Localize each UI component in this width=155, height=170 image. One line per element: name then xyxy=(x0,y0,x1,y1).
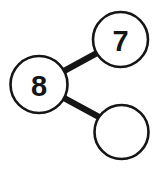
node-part-bottom[interactable] xyxy=(95,105,149,159)
number-bond-diagram: 8 7 xyxy=(0,0,155,170)
node-part-top[interactable]: 7 xyxy=(93,12,148,67)
node-whole[interactable]: 8 xyxy=(11,56,68,113)
edge-whole-to-part-bottom xyxy=(64,98,99,117)
node-part-bottom-circle[interactable] xyxy=(95,105,149,159)
diagram-canvas: 8 7 xyxy=(0,0,155,170)
edge-whole-to-part-top xyxy=(64,53,97,71)
node-part-top-label: 7 xyxy=(112,25,128,57)
node-whole-label: 8 xyxy=(31,70,47,102)
